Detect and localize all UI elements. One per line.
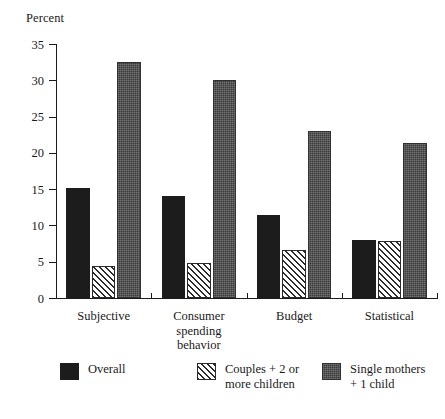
legend-item: Single mothers + 1 child [322, 362, 425, 391]
y-tick-label: 5 [38, 256, 44, 269]
bar [66, 188, 90, 298]
y-tick-label: 10 [32, 220, 45, 233]
y-tick-label: 30 [32, 75, 45, 88]
y-tick-label: 15 [32, 183, 45, 196]
legend-label: Single mothers + 1 child [350, 362, 425, 391]
bar [162, 196, 186, 298]
x-tick [437, 293, 438, 299]
legend-label: Couples + 2 or more children [225, 362, 299, 391]
bar [92, 266, 116, 298]
y-tick-label: 20 [32, 147, 45, 160]
bar [352, 240, 376, 298]
legend-swatch-icon [322, 363, 341, 380]
legend-item: Couples + 2 or more children [197, 362, 299, 391]
legend-swatch-icon [197, 363, 216, 380]
bar [403, 143, 427, 298]
y-tick-label: 35 [32, 38, 45, 51]
y-tick: 30 [49, 80, 56, 81]
category-label: Subjective [56, 309, 151, 324]
y-axis-title: Percent [26, 11, 64, 26]
y-tick: 0 [49, 298, 56, 299]
y-tick: 10 [49, 225, 56, 226]
y-tick-label: 25 [32, 111, 45, 124]
bar [187, 263, 211, 298]
legend-swatch-icon [60, 363, 79, 380]
bar [378, 241, 402, 298]
category-label: Statistical [342, 309, 437, 324]
legend-label: Overall [88, 362, 125, 377]
y-tick: 35 [49, 44, 56, 45]
legend-item: Overall [60, 362, 125, 380]
bar [213, 80, 237, 298]
bar [257, 215, 281, 298]
y-tick: 15 [49, 189, 56, 190]
bar [282, 250, 306, 298]
y-tick: 25 [49, 117, 56, 118]
y-tick: 20 [49, 153, 56, 154]
percent-grouped-bar-chart: Percent 05101520253035 SubjectiveConsume… [0, 0, 445, 419]
bar [117, 62, 141, 298]
bar [308, 131, 332, 298]
y-tick-label: 0 [38, 292, 44, 305]
y-tick: 5 [49, 262, 56, 263]
category-label: Consumer spending behavior [151, 309, 246, 353]
category-label: Budget [247, 309, 342, 324]
plot-area [56, 44, 437, 298]
chart-legend: OverallCouples + 2 or more childrenSingl… [0, 362, 445, 402]
